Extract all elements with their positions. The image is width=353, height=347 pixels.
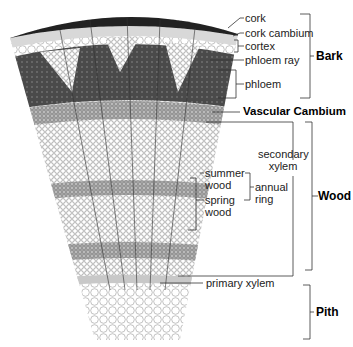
label-secondary-xylem-line2: xylem [258, 160, 308, 172]
label-secondary-xylem: secondary xylem [258, 148, 308, 172]
label-annual-ring-line1: annual [255, 181, 288, 193]
label-summer-wood: summer wood [205, 167, 245, 191]
label-summer-wood-line2: wood [205, 179, 245, 191]
label-phloem-ray: phloem ray [245, 54, 299, 66]
label-cork: cork [245, 12, 266, 24]
label-secondary-xylem-line1: secondary [258, 148, 308, 160]
label-spring-wood: spring wood [205, 194, 235, 218]
label-primary-xylem: primary xylem [206, 277, 274, 289]
label-annual-ring: annual ring [255, 181, 288, 205]
label-cortex: cortex [245, 40, 275, 52]
stem-wedge-illustration [0, 0, 353, 347]
label-spring-wood-line1: spring [205, 194, 235, 206]
label-vascular-cambium: Vascular Cambium [243, 105, 346, 117]
label-cork-cambium: cork cambium [245, 27, 313, 39]
label-spring-wood-line2: wood [205, 206, 235, 218]
group-label-wood: Wood [318, 190, 351, 202]
label-summer-wood-line1: summer [205, 167, 245, 179]
group-label-pith: Pith [316, 306, 339, 318]
diagram-canvas: cork cork cambium cortex phloem ray phlo… [0, 0, 353, 347]
label-phloem: phloem [245, 78, 281, 90]
group-label-bark: Bark [316, 50, 343, 62]
label-annual-ring-line2: ring [255, 193, 288, 205]
